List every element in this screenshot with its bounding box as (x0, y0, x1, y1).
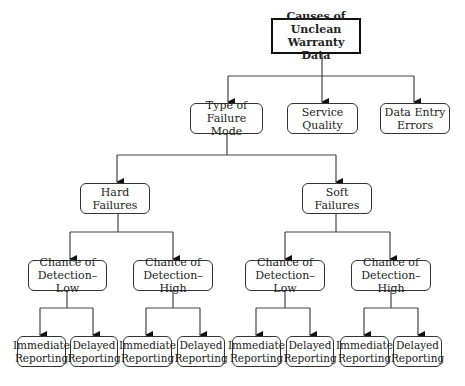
connector-lines (0, 0, 465, 386)
node-soft-failures: Soft Failures (302, 183, 372, 214)
node-data-entry-errors: Data Entry Errors (380, 103, 450, 134)
node-type-of-failure-mode: Type of Failure Mode (190, 103, 263, 134)
node-immediate-reporting: Immediate Reporting (123, 336, 172, 367)
node-delayed-reporting: Delayed Reporting (393, 336, 442, 367)
node-hard-failures: Hard Failures (80, 183, 150, 214)
node-immediate-reporting: Immediate Reporting (340, 336, 389, 367)
node-hard-detection-high: Chance of Detection–High (133, 260, 213, 291)
node-service-quality: Service Quality (287, 103, 358, 134)
node-immediate-reporting: Immediate Reporting (17, 336, 66, 367)
node-delayed-reporting: Delayed Reporting (177, 336, 225, 367)
warranty-data-tree-diagram: Causes of Unclean Warranty Data Type of … (0, 0, 465, 386)
node-soft-detection-high: Chance of Detection–High (351, 260, 431, 291)
node-immediate-reporting: Immediate Reporting (232, 336, 281, 367)
root-node: Causes of Unclean Warranty Data (271, 18, 361, 54)
node-delayed-reporting: Delayed Reporting (70, 336, 118, 367)
node-soft-detection-low: Chance of Detection–Low (245, 260, 325, 291)
node-delayed-reporting: Delayed Reporting (286, 336, 334, 367)
node-hard-detection-low: Chance of Detection–Low (28, 260, 107, 291)
